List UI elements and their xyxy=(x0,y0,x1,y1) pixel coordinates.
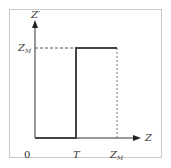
origin-label: 0 xyxy=(24,149,30,160)
step-function-line xyxy=(35,48,117,138)
x-axis-label: Z xyxy=(144,132,153,143)
y-tick-zm-label: ZM xyxy=(17,42,32,54)
x-axis-arrow-icon xyxy=(133,135,141,141)
y-axis-arrow-icon xyxy=(32,20,38,28)
x-tick-zm-label: ZM xyxy=(109,149,124,161)
x-tick-t-label: T xyxy=(73,149,81,160)
step-function-diagram: Z′ Z 0 T ZM ZM xyxy=(0,0,171,168)
y-axis-label: Z′ xyxy=(30,9,41,20)
